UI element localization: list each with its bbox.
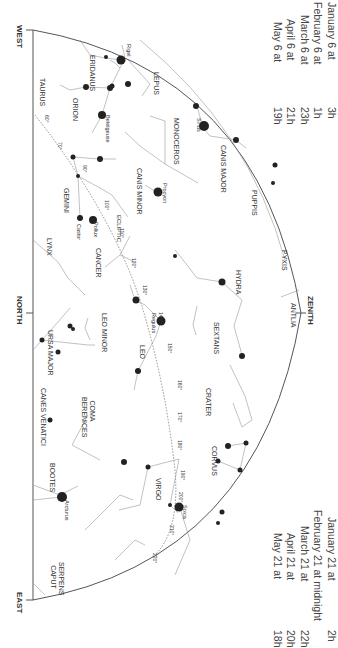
time-row: March 21 at 22h: [298, 510, 312, 640]
ecliptic-mark: 220°: [152, 553, 158, 563]
time-row: February 21 at midnight: [311, 510, 325, 640]
label-leo: LEO: [139, 345, 146, 359]
label-hydra-1: HYDRA: [235, 270, 242, 295]
label-virgo: VIRGO: [155, 478, 162, 501]
label-leo-minor: LEO MINOR: [101, 313, 108, 352]
ecliptic-mark: 170°: [177, 412, 183, 422]
ecliptic-mark: 150°: [167, 343, 173, 353]
viewing-times-top: January 6 at 3h February 6 at 1h March 6…: [271, 2, 338, 132]
ecliptic-mark: 60°: [44, 115, 50, 123]
ecliptic-mark: 130°: [142, 285, 148, 295]
label-orion: ORION: [72, 98, 79, 121]
ecliptic-mark: 160°: [177, 380, 183, 390]
label-arcturus: Arcturus: [64, 500, 70, 520]
star-rigel: [117, 56, 126, 65]
label-cancer: CANCER: [95, 248, 102, 278]
ecliptic-mark: 110°: [119, 228, 125, 238]
ecliptic-mark: 190°: [180, 470, 186, 480]
label-antlia: ANTLIA: [290, 303, 297, 328]
label-canes-venatici: CANES VENATICI: [40, 388, 47, 446]
ecliptic-mark: 140°: [158, 312, 164, 322]
north-label: NORTH: [15, 296, 24, 324]
label-lynx: LYNX: [46, 238, 53, 256]
label-pyxis: PYXIS: [281, 250, 288, 271]
label-ursa-major: URSA MAJOR: [47, 330, 54, 376]
time-row: May 6 at 19h: [271, 2, 285, 132]
label-spica: Spica: [182, 505, 188, 519]
label-bootes: BOOTES: [49, 463, 56, 492]
time-row: May 21 at 18h: [271, 510, 285, 640]
zenith-label: ZENITH: [306, 296, 315, 325]
star-castor: [77, 215, 83, 221]
ecliptic-mark: 180°: [177, 440, 183, 450]
label-taurus: TAURUS: [39, 78, 46, 106]
ecliptic-mark: 210°: [169, 525, 175, 535]
time-row: February 6 at 1h: [311, 2, 325, 132]
east-label: EAST: [15, 592, 24, 613]
label-sextans: SEXTANS: [213, 322, 220, 354]
label-monoceros: MONOCEROS: [173, 118, 180, 165]
label-gemini: GEMINI: [63, 188, 70, 213]
label-puppis: PUPPIS: [251, 190, 258, 216]
label-rigel: Rigel: [126, 44, 132, 57]
label-canis-minor: CANIS MINOR: [136, 168, 143, 215]
west-label: WEST: [15, 25, 24, 48]
label-coma-berenices: COMA BERENICES: [80, 397, 96, 425]
time-row: March 6 at 23h: [298, 2, 312, 132]
ecliptic-mark: 70°: [57, 142, 63, 150]
ecliptic-mark: 100°: [104, 200, 110, 210]
time-row: April 21 at 20h: [284, 510, 298, 640]
ecliptic-mark: 90°: [82, 165, 88, 173]
label-procyon: Procyon: [162, 183, 168, 203]
label-regulus: Regulus: [151, 313, 157, 333]
label-canis-major: CANIS MAJOR: [220, 145, 227, 193]
label-betelgeuse: Betelgeuse: [105, 115, 111, 143]
label-lepus: LEPUS: [153, 72, 160, 95]
time-row: April 6 at 21h: [284, 2, 298, 132]
ecliptic-mark: 120°: [131, 258, 137, 268]
viewing-times-bottom: January 21 at 2h February 21 at midnight…: [271, 510, 338, 640]
ecliptic-mark: 200°: [178, 492, 184, 502]
label-corvus: CORVUS: [211, 446, 218, 476]
label-crater: CRATER: [205, 388, 212, 416]
label-castor: Castor: [76, 224, 82, 240]
label-serpens-caput: SERPENS CAPUT: [49, 562, 65, 592]
label-pollux: Pollux: [93, 222, 99, 237]
constellation-lines: [33, 40, 299, 595]
time-row: January 6 at 3h: [325, 2, 338, 132]
horizon-inner-arc: [140, 40, 285, 260]
label-sirius: Sirius: [196, 118, 202, 132]
time-row: January 21 at 2h: [325, 510, 338, 640]
label-eridanus: ERIDANUS: [89, 55, 96, 91]
